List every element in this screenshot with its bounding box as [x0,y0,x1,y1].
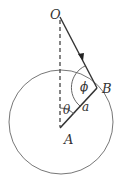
circle [9,70,113,174]
line-OB [60,17,97,88]
label-A: A [63,132,73,147]
arrow-icon [78,53,84,61]
label-B: B [101,81,112,96]
label-theta: θ [63,103,71,117]
diagram-canvas: O B A a θ ϕ [0,0,122,188]
label-a: a [82,100,89,114]
label-O: O [50,7,61,22]
label-phi: ϕ [80,80,88,94]
